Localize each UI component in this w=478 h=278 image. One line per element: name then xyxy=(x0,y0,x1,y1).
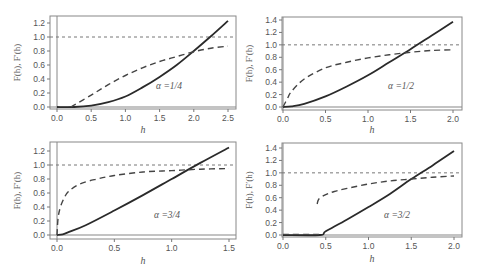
curve-F xyxy=(283,151,454,235)
panel-bottom-left: 0.00.20.40.60.81.01.20.00.51.01.5hF(h), … xyxy=(12,142,236,266)
panel-top-left: 0.00.20.40.60.81.01.20.00.51.01.52.02.5h… xyxy=(12,16,236,135)
y-axis: 0.00.20.40.60.81.01.2 xyxy=(33,146,50,240)
x-tick-label: 2.5 xyxy=(222,113,234,123)
y-tick-label: 0.0 xyxy=(265,102,277,112)
y-tick-label: 0.4 xyxy=(33,74,45,84)
x-tick-label: 1.5 xyxy=(154,113,166,123)
curve-F-prime xyxy=(71,46,228,107)
x-tick-label: 0.5 xyxy=(108,243,120,253)
curve-F xyxy=(57,21,228,107)
curve-F-prime xyxy=(317,176,454,204)
alpha-annotation: α =1/4 xyxy=(156,81,182,91)
plot-frame xyxy=(50,16,236,109)
x-tick-label: 1.5 xyxy=(223,243,235,253)
y-tick-label: 0.4 xyxy=(33,202,45,212)
y-tick-label: 1.2 xyxy=(33,146,45,156)
y-axis: 0.00.20.40.60.81.01.21.4 xyxy=(265,143,282,240)
x-axis-label: h xyxy=(141,255,146,266)
y-tick-label: 0.4 xyxy=(265,205,277,215)
x-tick-label: 0.0 xyxy=(51,113,63,123)
y-axis: 0.00.20.40.60.81.01.21.4 xyxy=(265,15,282,112)
chart-canvas: 0.00.20.40.60.81.01.20.00.51.01.52.02.5h… xyxy=(0,0,478,278)
x-tick-label: 1.5 xyxy=(405,241,417,251)
y-tick-label: 0.8 xyxy=(265,52,277,62)
y-tick-label: 0.0 xyxy=(265,230,277,240)
y-tick-label: 0.0 xyxy=(33,102,45,112)
y-axis-label: F(h), F′(h) xyxy=(12,44,22,81)
alpha-annotation: α =3/2 xyxy=(384,210,410,220)
y-tick-label: 0.6 xyxy=(33,60,45,70)
y-tick-label: 0.8 xyxy=(33,174,45,184)
y-tick-label: 1.2 xyxy=(265,27,277,37)
x-tick-label: 0.0 xyxy=(277,241,289,251)
y-tick-label: 0.8 xyxy=(265,180,277,190)
y-tick-label: 1.4 xyxy=(265,15,277,25)
x-tick-label: 0.5 xyxy=(85,113,97,123)
x-tick-label: 0.5 xyxy=(320,241,332,251)
y-tick-label: 0.2 xyxy=(33,216,45,226)
x-axis: 0.00.51.01.5 xyxy=(51,239,235,253)
y-tick-label: 1.4 xyxy=(265,143,277,153)
y-tick-label: 1.2 xyxy=(265,155,277,165)
x-tick-label: 1.0 xyxy=(166,243,178,253)
y-tick-label: 0.4 xyxy=(265,77,277,87)
x-axis-label: h xyxy=(370,253,375,264)
y-tick-label: 0.6 xyxy=(265,193,277,203)
x-tick-label: 1.0 xyxy=(362,114,374,124)
alpha-annotation: α =1/2 xyxy=(388,81,414,91)
x-tick-label: 0.5 xyxy=(320,114,332,124)
x-tick-label: 2.0 xyxy=(447,114,459,124)
plot-frame xyxy=(50,142,236,239)
y-tick-label: 0.2 xyxy=(265,218,277,228)
y-tick-label: 0.2 xyxy=(265,90,277,100)
curve-F xyxy=(283,22,453,107)
plot-frame xyxy=(282,143,462,237)
panel-top-right: 0.00.20.40.60.81.01.21.40.00.51.01.52.0h… xyxy=(244,15,462,135)
x-tick-label: 1.0 xyxy=(119,113,131,123)
y-tick-label: 0.8 xyxy=(33,46,45,56)
curve-F-prime xyxy=(283,50,453,107)
x-tick-label: 0.0 xyxy=(51,243,63,253)
x-axis: 0.00.51.01.52.0 xyxy=(277,110,459,124)
x-axis-label: h xyxy=(141,124,146,135)
y-axis-label: F(h), F′(h) xyxy=(244,171,254,208)
y-tick-label: 0.6 xyxy=(265,65,277,75)
x-tick-label: 1.5 xyxy=(405,114,417,124)
x-tick-label: 2.0 xyxy=(188,113,200,123)
y-tick-label: 0.0 xyxy=(33,230,45,240)
y-tick-label: 1.0 xyxy=(33,160,45,170)
x-tick-label: 0.0 xyxy=(277,114,289,124)
curve-F xyxy=(57,148,229,236)
y-axis-label: F(h), F′(h) xyxy=(12,172,22,209)
alpha-annotation: α =3/4 xyxy=(154,210,180,220)
x-axis: 0.00.51.01.52.0 xyxy=(277,237,460,251)
figure: 0.00.20.40.60.81.01.20.00.51.01.52.02.5h… xyxy=(0,0,478,278)
x-axis: 0.00.51.01.52.02.5 xyxy=(51,109,234,123)
x-tick-label: 1.0 xyxy=(363,241,375,251)
plot-frame xyxy=(282,17,462,110)
y-tick-label: 1.0 xyxy=(265,168,277,178)
y-axis: 0.00.20.40.60.81.01.2 xyxy=(33,18,50,112)
y-tick-label: 1.0 xyxy=(265,40,277,50)
y-tick-label: 1.2 xyxy=(33,18,45,28)
curve-F-prime xyxy=(57,169,229,236)
x-axis-label: h xyxy=(370,124,375,135)
y-tick-label: 0.6 xyxy=(33,188,45,198)
y-tick-label: 1.0 xyxy=(33,32,45,42)
panel-bottom-right: 0.00.20.40.60.81.01.21.40.00.51.01.52.0h… xyxy=(244,143,462,264)
y-axis-label: F(h), F′(h) xyxy=(244,45,254,82)
x-tick-label: 2.0 xyxy=(448,241,460,251)
y-tick-label: 0.2 xyxy=(33,88,45,98)
